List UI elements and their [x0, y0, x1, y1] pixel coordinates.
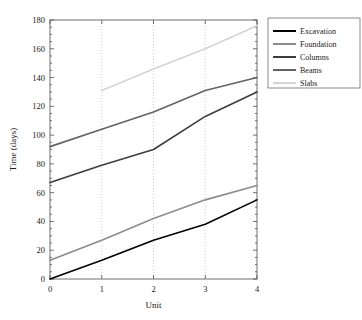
x-tick-label: 2 [151, 284, 155, 294]
y-tick-label: 120 [32, 101, 45, 111]
y-tick-label: 20 [37, 245, 46, 255]
legend-label-columns: Columns [300, 53, 329, 62]
line-chart-figure: 020406080100120140160180 01234 Unit Time… [0, 0, 362, 320]
x-tick-label: 0 [48, 284, 52, 294]
y-tick-label: 140 [32, 73, 45, 83]
y-axis-title: Time (days) [8, 128, 18, 171]
x-tick-label: 1 [100, 284, 104, 294]
y-tick-label: 60 [37, 188, 46, 198]
y-tick-label: 40 [37, 216, 46, 226]
y-tick-label: 0 [41, 274, 45, 284]
y-tick-label: 180 [32, 15, 45, 25]
legend-label-beams: Beams [300, 66, 322, 75]
legend-label-foundation: Foundation [300, 40, 336, 49]
x-tick-label: 3 [203, 284, 207, 294]
y-tick-label: 100 [32, 130, 45, 140]
y-tick-label: 160 [32, 44, 45, 54]
y-tick-label: 80 [37, 159, 46, 169]
legend: ExcavationFoundationColumnsBeamsSlabs [268, 18, 360, 88]
x-axis-title: Unit [145, 300, 162, 310]
legend-label-slabs: Slabs [300, 79, 317, 88]
legend-label-excavation: Excavation [300, 27, 336, 36]
